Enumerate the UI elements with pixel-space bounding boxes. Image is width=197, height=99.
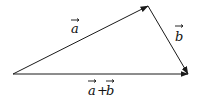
label-a: a (71, 19, 79, 37)
vector-addition-diagram: a b a + b (0, 0, 197, 99)
label-sum-b: b (106, 83, 114, 98)
label-a-plus-b: a + b (88, 80, 114, 99)
label-b-text: b (175, 29, 183, 44)
label-a-text: a (71, 21, 79, 36)
label-b: b (175, 25, 183, 45)
label-sum-a: a (88, 83, 96, 98)
vector-a-arrow (13, 6, 148, 74)
overarrow-icon (175, 25, 183, 28)
